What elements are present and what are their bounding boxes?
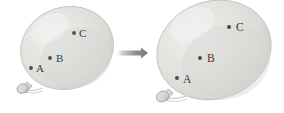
left-balloon-knot	[15, 82, 43, 95]
right-knot-ribbon-2	[167, 99, 187, 101]
right-point-label-B: B	[207, 52, 215, 64]
left-point-label-A: A	[36, 62, 44, 74]
left-balloon: A B C	[10, 0, 125, 102]
left-point-dot-C	[72, 31, 76, 35]
arrow-shape	[116, 48, 148, 59]
left-knot-ribbon-2	[26, 91, 43, 93]
left-point-label-C: C	[79, 27, 86, 39]
figure-canvas: A B C	[0, 0, 284, 113]
right-point-dot-C	[227, 25, 231, 29]
right-point-label-A: A	[183, 73, 192, 85]
left-point-label-B: B	[56, 52, 63, 64]
balloon-expansion-figure: A B C	[0, 0, 284, 113]
right-point-dot-A	[175, 76, 179, 80]
right-point-dot-B	[198, 56, 202, 60]
left-point-dot-A	[29, 66, 33, 70]
left-point-dot-B	[48, 56, 52, 60]
right-point-label-C: C	[236, 21, 244, 33]
transition-arrow	[116, 48, 148, 59]
right-balloon: A B C	[144, 0, 284, 113]
